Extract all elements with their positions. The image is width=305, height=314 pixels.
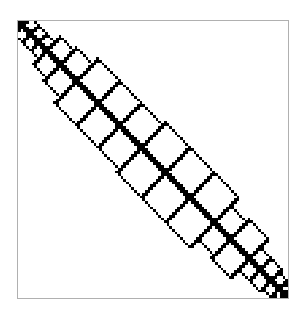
plot-frame: [17, 20, 289, 299]
sparsity-plot: [18, 21, 288, 298]
